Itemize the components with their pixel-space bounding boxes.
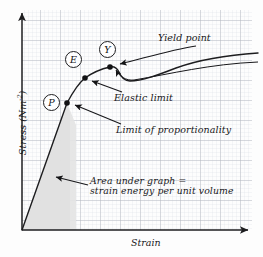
y-axis-label: Stress (Nm-2): [17, 78, 29, 168]
y-axis-label-text: Stress (Nm: [17, 101, 28, 155]
point-marker-P-label: P: [48, 97, 54, 108]
point-marker-Y-label: Y: [104, 44, 110, 55]
area-under-graph-line2: strain energy per unit volume: [90, 186, 234, 196]
point-marker-P: P: [43, 94, 60, 111]
point-marker-E-label: E: [70, 54, 77, 65]
area-under-graph-annotation: Area under graph = strain energy per uni…: [90, 176, 234, 197]
stress-strain-figure: P E Y Yield point Elastic limit Limit of…: [0, 0, 263, 257]
point-marker-E: E: [65, 51, 82, 68]
y-axis-label-exponent: -2: [16, 94, 24, 100]
elastic-limit-annotation: Elastic limit: [114, 93, 173, 104]
x-axis-label: Strain: [131, 238, 161, 249]
point-P-dot: [64, 100, 70, 106]
yield-point-annotation: Yield point: [158, 33, 211, 44]
point-Y-dot: [107, 64, 113, 70]
y-axis-label-close: ): [17, 91, 28, 95]
point-E-dot: [82, 75, 88, 81]
point-marker-Y: Y: [99, 41, 116, 58]
limit-of-proportionality-annotation: Limit of proportionality: [116, 125, 231, 136]
